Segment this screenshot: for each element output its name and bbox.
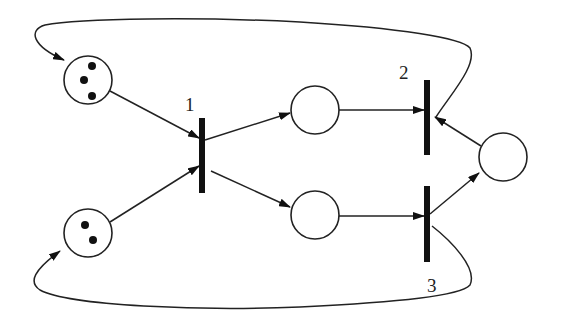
transition-3-label: 3 xyxy=(427,275,437,296)
arc-t3-to-p5 xyxy=(430,173,479,214)
token-icon xyxy=(88,92,96,100)
token-icon xyxy=(89,236,97,244)
transition-1-label: 1 xyxy=(185,94,195,115)
arc-p5-to-t2 xyxy=(435,117,481,146)
place-p3 xyxy=(291,86,339,134)
place-p5 xyxy=(479,133,527,181)
place-p1 xyxy=(64,56,112,104)
token-icon xyxy=(88,62,96,70)
token-icon xyxy=(80,76,88,84)
token-icon xyxy=(81,221,89,229)
transition-2: 2 xyxy=(399,62,430,155)
transition-2-label: 2 xyxy=(399,62,409,83)
arc-t1-to-p4 xyxy=(211,171,290,207)
arc-p2-to-t1 xyxy=(110,166,199,222)
transition-3: 3 xyxy=(424,186,437,296)
transition-1: 1 xyxy=(185,94,205,193)
place-p2 xyxy=(64,209,112,257)
arc-t1-to-p3 xyxy=(205,113,290,140)
petri-net-diagram: 1 2 3 xyxy=(0,0,561,323)
place-p4 xyxy=(291,191,339,239)
